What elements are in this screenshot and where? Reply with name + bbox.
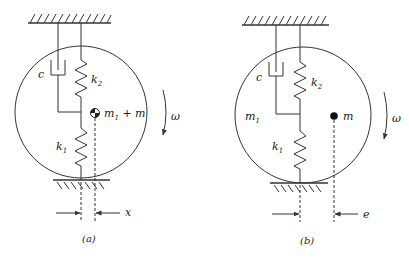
rotation-arrow [163,90,166,135]
damper [51,23,65,112]
spring-k2-label-a: k2 [91,73,103,88]
caption-a: (a) [82,233,96,244]
ceiling-support [242,16,329,25]
lower-spring [75,125,87,180]
omega-label-b: ω [392,112,401,125]
omega-label-a: ω [171,110,180,123]
spring-k1-label-b: k1 [272,140,283,155]
offset-label-e: e [363,208,370,221]
spring-k1-label-a: k1 [56,140,67,155]
center-of-mass-icon [91,109,100,118]
point-mass-icon [330,112,338,120]
diagram-canvas: c k2 k1 m1 + m ω x (a) [0,0,409,259]
mass-label-a: m1 + m [104,107,146,122]
spring-k2-label-b: k2 [311,76,323,91]
upper-spring [58,23,87,125]
disk-mass-label-b: m1 [245,110,260,125]
point-mass-label-b: m [343,110,353,123]
damper-label-b: c [256,71,262,84]
damper-label-a: c [38,68,44,81]
lower-spring [294,128,306,183]
caption-b: (b) [300,235,314,246]
damper [269,25,283,114]
offset-label-x: x [125,206,132,219]
rotation-arrow [384,92,387,139]
floor-support [270,183,328,192]
ceiling-support [28,14,111,23]
